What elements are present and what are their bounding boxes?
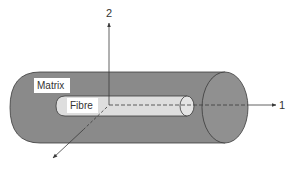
axis-2-label: 2 [106, 7, 112, 19]
fibre-matrix-diagram: 2 1 Matrix Fibre [0, 0, 292, 175]
axis-1-label: 1 [279, 99, 285, 111]
fibre-label: Fibre [67, 98, 98, 113]
fibre-label-text: Fibre [70, 100, 93, 111]
matrix-label: Matrix [34, 78, 70, 93]
fibre-end-face [180, 96, 194, 116]
diagram-svg: 2 1 Matrix Fibre [0, 0, 292, 175]
matrix-end-face [202, 72, 248, 143]
matrix-label-text: Matrix [37, 80, 64, 91]
